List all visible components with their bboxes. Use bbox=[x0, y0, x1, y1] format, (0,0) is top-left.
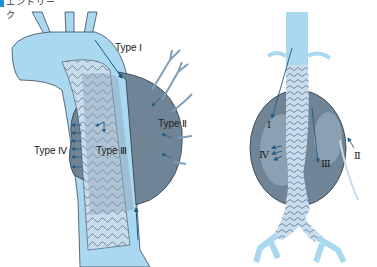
label-right-type1: Ⅰ bbox=[267, 119, 271, 130]
arch-branch-1 bbox=[32, 12, 50, 34]
label-right-type2: Ⅱ bbox=[354, 150, 361, 161]
abdominal-aneurysm-sac bbox=[250, 90, 346, 206]
left-diagram bbox=[0, 0, 240, 267]
arch-branch-2 bbox=[65, 12, 74, 34]
label-right-type4: Ⅳ bbox=[259, 149, 269, 160]
label-type1: Type Ⅰ bbox=[115, 42, 142, 53]
label-type4: Type Ⅳ bbox=[34, 145, 67, 156]
label-type2: Type Ⅱ bbox=[158, 118, 187, 129]
graft-limb-right bbox=[286, 65, 324, 242]
graft-limb-left bbox=[272, 65, 310, 240]
label-type3: Type Ⅲ bbox=[96, 145, 127, 156]
label-right-type3: Ⅲ bbox=[321, 158, 331, 169]
abdominal-aorta bbox=[286, 12, 308, 92]
